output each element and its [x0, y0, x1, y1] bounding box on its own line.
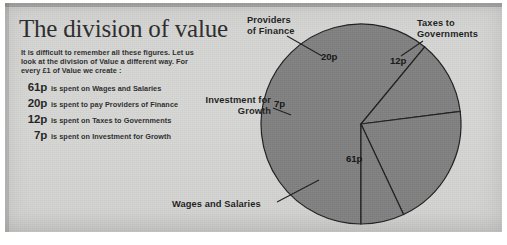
- list-item: 7p is spent on Investment for Growth: [21, 129, 216, 145]
- page-left-edge: [5, 3, 9, 232]
- pie-slice: [361, 111, 461, 214]
- leader-line-providers: [287, 36, 322, 56]
- bullet-amount: 61p: [21, 81, 47, 93]
- page-title: The division of value: [19, 15, 228, 43]
- leader-line-wages: [277, 180, 319, 202]
- slice-value-wages: 61p: [346, 153, 362, 164]
- list-item: 12p is spent on Taxes to Governments: [21, 113, 216, 129]
- bullet-amount: 20p: [21, 97, 47, 109]
- callout-providers-of-finance: Providers of Finance: [247, 15, 295, 36]
- pie-slice: [361, 47, 460, 124]
- callout-taxes-to-governments: Taxes to Governments: [417, 18, 478, 39]
- bullet-amount: 12p: [21, 113, 47, 125]
- value-breakdown-list: 61p is spent on Wages and Salaries 20p i…: [21, 81, 216, 145]
- leader-line-taxes: [401, 41, 423, 56]
- bullet-text: is spent on Taxes to Governments: [51, 116, 171, 125]
- scanned-page: The division of value It is difficult to…: [5, 3, 502, 232]
- slice-value-providers: 20p: [321, 51, 337, 62]
- list-item: 20p is spent to pay Providers of Finance: [21, 97, 216, 113]
- slice-value-investment: 7p: [274, 98, 285, 109]
- pie-slices: [261, 24, 461, 224]
- bullet-text: is spent to pay Providers of Finance: [51, 100, 178, 109]
- callout-leader-lines: [273, 36, 423, 202]
- list-item: 61p is spent on Wages and Salaries: [21, 81, 216, 97]
- bullet-text: is spent on Investment for Growth: [51, 132, 171, 141]
- leader-line-investment: [273, 108, 291, 115]
- page-top-edge: [5, 3, 502, 7]
- bullet-text: is spent on Wages and Salaries: [51, 84, 161, 93]
- pie-slice: [261, 24, 425, 224]
- slice-value-taxes: 12p: [390, 55, 406, 66]
- callout-wages-and-salaries: Wages and Salaries: [172, 199, 261, 210]
- pie-slice: [361, 124, 404, 224]
- intro-paragraph: It is difficult to remember all these fi…: [21, 48, 201, 76]
- bullet-amount: 7p: [21, 129, 47, 141]
- screenshot-root: The division of value It is difficult to…: [0, 0, 507, 245]
